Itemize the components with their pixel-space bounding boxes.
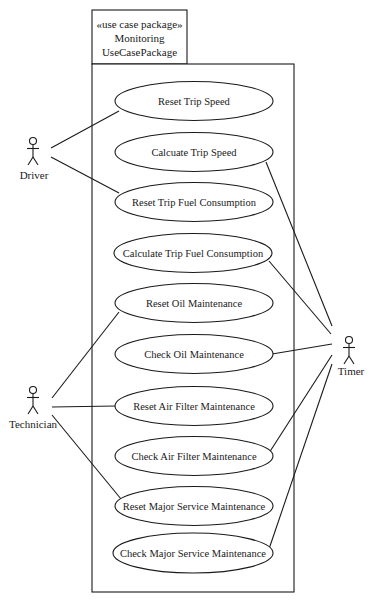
stick-figure-icon [27,138,39,166]
use-case-label: Calcuate Trip Speed [151,147,237,158]
use-case-check-major-service-maintenance[interactable]: Check Major Service Maintenance [113,533,273,573]
use-case-label: Check Major Service Maintenance [120,548,266,559]
use-case-calcuate-trip-speed[interactable]: Calcuate Trip Speed [115,133,273,172]
use-case-label: Reset Trip Speed [158,96,231,107]
use-case-reset-trip-fuel-consumption[interactable]: Reset Trip Fuel Consumption [115,183,273,222]
use-case-label: Check Oil Maintenance [144,349,244,360]
use-case-reset-air-filter-maintenance[interactable]: Reset Air Filter Maintenance [115,387,273,426]
actor-label: Technician [9,418,58,430]
actor-timer[interactable]: Timer [338,337,365,378]
use-case-reset-major-service-maintenance[interactable]: Reset Major Service Maintenance [115,487,273,526]
actor-label: Driver [20,169,49,181]
use-case-label: Reset Trip Fuel Consumption [132,197,257,208]
use-case-label: Reset Air Filter Maintenance [133,401,255,412]
use-case-reset-oil-maintenance[interactable]: Reset Oil Maintenance [115,284,273,323]
use-case-reset-trip-speed[interactable]: Reset Trip Speed [115,82,273,121]
package-tab: «use case package» Monitoring UseCasePac… [92,10,187,64]
use-case-calculate-trip-fuel-consumption[interactable]: Calculate Trip Fuel Consumption [114,234,272,273]
package-name-line2: UseCasePackage [102,46,177,58]
package-name-line1: Monitoring [114,32,165,44]
use-case-check-air-filter-maintenance[interactable]: Check Air Filter Maintenance [115,437,273,476]
use-case-label: Reset Major Service Maintenance [123,501,266,512]
use-case-label: Check Air Filter Maintenance [131,451,256,462]
use-case-label: Reset Oil Maintenance [146,298,243,309]
stick-figure-icon [27,387,39,415]
package-stereotype: «use case package» [96,18,182,30]
actor-technician[interactable]: Technician [9,387,58,431]
use-case-label: Calculate Trip Fuel Consumption [123,248,264,259]
actor-label: Timer [338,365,365,377]
actor-driver[interactable]: Driver [20,138,49,182]
use-case-diagram: «use case package» Monitoring UseCasePac… [0,0,377,603]
use-case-check-oil-maintenance[interactable]: Check Oil Maintenance [115,335,273,374]
stick-figure-icon [343,337,355,365]
